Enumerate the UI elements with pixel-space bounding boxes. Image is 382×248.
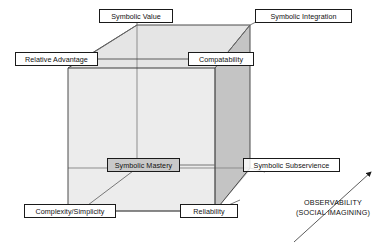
node-compatability-label: Compatability — [199, 55, 243, 64]
node-symbolic-mastery-label: Symbolic Mastery — [115, 161, 173, 170]
node-symbolic-integration[interactable]: Symbolic Integration — [255, 9, 352, 23]
observability-axis-label: OBSERVABILITY (SOCIAL IMAGINING) — [287, 198, 379, 218]
observability-axis-line1: OBSERVABILITY — [287, 198, 379, 208]
observability-axis-line2: (SOCIAL IMAGINING) — [287, 208, 379, 218]
node-reliability-label: Reliability — [193, 207, 224, 216]
node-reliability[interactable]: Reliability — [180, 204, 238, 218]
node-symbolic-value[interactable]: Symbolic Value — [99, 9, 173, 23]
node-compatability[interactable]: Compatability — [188, 52, 254, 66]
diagram-canvas: Symbolic Value Symbolic Integration Rela… — [0, 0, 382, 248]
node-symbolic-subservience[interactable]: Symbolic Subservience — [243, 158, 340, 172]
node-relative-advantage[interactable]: Relative Advantage — [15, 52, 98, 66]
node-complexity-simplicity-label: Complexity/Simplicity — [36, 207, 105, 216]
node-symbolic-integration-label: Symbolic Integration — [270, 12, 336, 21]
node-symbolic-subservience-label: Symbolic Subservience — [254, 161, 330, 170]
node-relative-advantage-label: Relative Advantage — [25, 55, 88, 64]
node-symbolic-mastery[interactable]: Symbolic Mastery — [107, 158, 180, 172]
node-complexity-simplicity[interactable]: Complexity/Simplicity — [24, 204, 116, 218]
cube-face-front — [68, 68, 215, 211]
node-symbolic-value-label: Symbolic Value — [111, 12, 161, 21]
